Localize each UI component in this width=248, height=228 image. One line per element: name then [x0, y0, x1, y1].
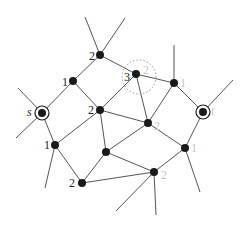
graph-edge-stub: [116, 172, 154, 211]
graph-node-bot2: [78, 179, 86, 187]
graph-edge-stub: [154, 172, 156, 215]
graph-node-bot2l: [150, 168, 158, 176]
graph-edge: [100, 55, 136, 74]
node-label: 2: [69, 177, 75, 189]
node-label: 1: [62, 76, 68, 88]
node-label: 2: [161, 169, 167, 181]
graph-edge: [100, 110, 148, 123]
graph-edge: [82, 172, 154, 183]
graph-edge: [73, 55, 100, 81]
graph-edge: [154, 148, 185, 172]
node-label: 1: [180, 77, 186, 89]
graph-node-t: [199, 108, 207, 116]
graph-diagram: 21s2321t21122: [0, 0, 248, 228]
node-label: t: [211, 105, 214, 117]
graph-node-n3: [132, 70, 140, 78]
node-label: 2: [88, 104, 94, 116]
graph-edge: [82, 152, 106, 183]
graph-node-top: [96, 51, 104, 59]
graph-edge: [136, 74, 148, 123]
graph-edge: [106, 152, 154, 172]
graph-edge: [73, 81, 100, 110]
graph-node-c2: [144, 119, 152, 127]
graph-node-n1: [69, 77, 77, 85]
graph-edge-stub: [100, 18, 125, 55]
node-label: 1: [44, 139, 50, 151]
graph-node-r1: [170, 79, 178, 87]
graph-node-center: [102, 148, 110, 156]
graph-edge: [106, 123, 148, 152]
node-label: 2: [89, 50, 95, 62]
graph-node-r1b: [181, 144, 189, 152]
node-label: 3: [124, 71, 130, 83]
graph-edge: [148, 83, 174, 123]
graph-node-l1: [51, 141, 59, 149]
graph-node-mid2: [96, 106, 104, 114]
node-label: 2: [154, 120, 160, 132]
node-label: 2: [143, 64, 149, 76]
node-label: s: [27, 106, 32, 118]
node-label: 1: [191, 142, 197, 154]
graph-edge: [100, 110, 106, 152]
graph-node-s: [38, 109, 46, 117]
